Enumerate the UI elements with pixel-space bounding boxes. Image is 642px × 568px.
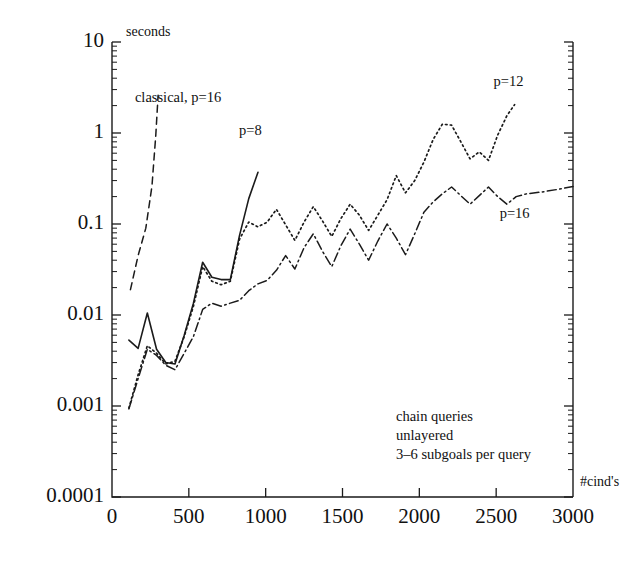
y-tick-label: 0.001 (57, 392, 104, 416)
x-tick-label: 2000 (398, 504, 440, 528)
chart-caption: chain queriesunlayered3–6 subgoals per q… (396, 408, 532, 462)
y-tick-label: 10 (83, 28, 104, 52)
x-axis-right-edge-ticks (564, 42, 573, 497)
y-tick-label: 0.1 (78, 210, 104, 234)
x-tick-label: 3000 (552, 504, 594, 528)
performance-chart: 1010.10.010.0010.0001 050010001500200025… (0, 0, 642, 568)
x-tick-label: 0 (107, 504, 118, 528)
series-annotation: classical, p=16 (135, 89, 221, 105)
series-annotation: p=12 (493, 73, 523, 89)
x-tick-label: 1000 (245, 504, 287, 528)
series-annotation: p=8 (239, 122, 262, 138)
x-axis-tick-labels: 050010001500200025003000 (107, 504, 594, 528)
y-axis-major-ticks (112, 42, 121, 497)
chart-page: 1010.10.010.0010.0001 050010001500200025… (0, 0, 642, 568)
x-tick-label: 500 (173, 504, 205, 528)
x-axis-ticks (189, 488, 496, 497)
y-tick-label: 1 (94, 119, 105, 143)
data-curves (129, 95, 573, 409)
y-axis-title: seconds (126, 24, 170, 39)
x-tick-label: 1500 (322, 504, 364, 528)
series-line-p-12 (129, 105, 515, 408)
y-tick-label: 0.01 (67, 301, 104, 325)
caption-line: chain queries (396, 408, 473, 424)
x-axis-title: #cind's (580, 474, 619, 489)
series-line-classical-p-16 (130, 95, 158, 289)
caption-line: unlayered (396, 427, 454, 443)
caption-line: 3–6 subgoals per query (396, 446, 532, 462)
y-tick-label: 0.0001 (46, 483, 104, 507)
y-axis-tick-labels: 1010.10.010.0010.0001 (46, 28, 104, 507)
series-annotations: classical, p=16p=8p=12p=16 (135, 73, 530, 222)
x-tick-label: 2500 (475, 504, 517, 528)
series-annotation: p=16 (500, 205, 530, 221)
axis-frame (112, 42, 573, 497)
